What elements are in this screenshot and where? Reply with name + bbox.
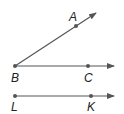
- label-k: K: [87, 100, 96, 114]
- ray-ba: [15, 13, 96, 66]
- label-l: L: [11, 100, 18, 114]
- point-c: [86, 64, 90, 68]
- label-c: C: [84, 71, 93, 85]
- point-a: [74, 24, 78, 28]
- point-k: [89, 94, 93, 98]
- point-b: [13, 64, 17, 68]
- label-b: B: [11, 71, 19, 85]
- point-l: [13, 94, 17, 98]
- label-a: A: [68, 10, 77, 24]
- geometry-diagram: A B C L K: [0, 0, 124, 114]
